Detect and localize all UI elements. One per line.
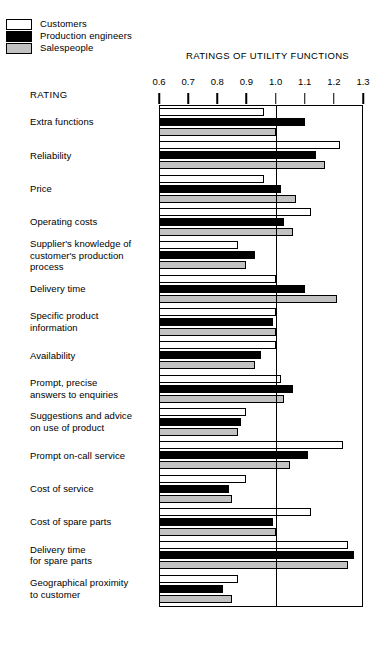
bar-customers [159, 575, 238, 583]
x-tick-label: 0.9 [240, 76, 253, 87]
category-label-line: Cost of service [30, 483, 158, 495]
bar-group [159, 174, 363, 207]
bar-production [159, 118, 305, 126]
category-label-line: Extra functions [30, 116, 158, 128]
bar-production [159, 251, 255, 259]
category-label-line: Geographical proximity [30, 577, 158, 589]
bar-customers [159, 175, 264, 183]
category-label: Availability [30, 350, 158, 362]
category-label-line: Specific product [30, 310, 158, 322]
category-label: Specific productinformation [30, 310, 158, 333]
bar-group [159, 140, 363, 173]
x-tick-mark [275, 93, 277, 104]
bar-customers [159, 541, 348, 549]
category-label-line: on use of product [30, 422, 158, 434]
x-tick-label: 1.2 [327, 76, 340, 87]
category-label: Supplier's knowledge ofcustomer's produc… [30, 238, 158, 273]
bar-group [159, 240, 363, 273]
bar-production [159, 151, 316, 159]
bar-salespeople [159, 261, 246, 269]
bar-customers [159, 275, 276, 283]
bar-group [159, 440, 363, 473]
x-tick-label: 1.0 [269, 76, 282, 87]
bar-customers [159, 308, 276, 316]
category-label-line: for spare parts [30, 555, 158, 567]
category-label: Price [30, 183, 158, 195]
chart-title: RATINGS OF UTILITY FUNCTIONS [186, 50, 349, 61]
bar-group [159, 274, 363, 307]
category-label-line: Cost of spare parts [30, 516, 158, 528]
bar-production [159, 418, 241, 426]
category-label-line: customer's production [30, 250, 158, 262]
legend-swatch-production-engineers [6, 31, 32, 42]
x-tick-label: 0.7 [182, 76, 195, 87]
bar-group [159, 107, 363, 140]
bar-salespeople [159, 328, 276, 336]
bar-group [159, 540, 363, 573]
category-label-line: Supplier's knowledge of [30, 238, 158, 250]
category-label-line: Price [30, 183, 158, 195]
legend-item-salespeople: Salespeople [6, 42, 186, 54]
bar-salespeople [159, 295, 337, 303]
x-tick-label: 1.3 [356, 76, 369, 87]
x-tick-mark [217, 93, 219, 104]
bar-salespeople [159, 128, 276, 136]
legend-item-production-engineers: Production engineers [6, 30, 186, 42]
category-label: Geographical proximityto customer [30, 577, 158, 600]
legend-label-production-engineers: Production engineers [40, 30, 132, 42]
bar-production [159, 518, 273, 526]
bar-salespeople [159, 228, 293, 236]
bar-customers [159, 141, 340, 149]
bar-customers [159, 408, 246, 416]
bar-production [159, 385, 293, 393]
legend-item-customers: Customers [6, 18, 186, 30]
bar-group [159, 307, 363, 340]
bar-salespeople [159, 561, 348, 569]
bar-customers [159, 241, 238, 249]
legend-label-salespeople: Salespeople [40, 42, 93, 54]
reference-line [276, 105, 278, 607]
category-label: Suggestions and adviceon use of product [30, 410, 158, 433]
category-label-line: Suggestions and advice [30, 410, 158, 422]
category-label-line: process [30, 261, 158, 273]
bar-salespeople [159, 528, 276, 536]
bar-production [159, 351, 261, 359]
plot-area [159, 105, 363, 607]
bar-group [159, 340, 363, 373]
x-tick-label: 1.1 [298, 76, 311, 87]
bar-group [159, 507, 363, 540]
category-label-line: Delivery time [30, 283, 158, 295]
category-label-line: Prompt, precise [30, 377, 158, 389]
x-tick-mark [187, 93, 189, 104]
bar-customers [159, 108, 264, 116]
bar-production [159, 285, 305, 293]
bar-group [159, 374, 363, 407]
bar-salespeople [159, 495, 232, 503]
bar-customers [159, 208, 311, 216]
category-label: Cost of service [30, 483, 158, 495]
legend-swatch-customers [6, 19, 32, 30]
bar-group [159, 574, 363, 607]
legend-swatch-salespeople [6, 43, 32, 54]
category-label-line: answers to enquiries [30, 389, 158, 401]
bar-salespeople [159, 461, 290, 469]
category-label-line: Prompt on-call service [30, 450, 158, 462]
category-label: Prompt on-call service [30, 450, 158, 462]
category-label: Prompt, preciseanswers to enquiries [30, 377, 158, 400]
category-label: Delivery time [30, 283, 158, 295]
x-tick-mark [304, 93, 306, 104]
bar-group [159, 407, 363, 440]
bar-production [159, 318, 273, 326]
x-tick-label: 0.6 [152, 76, 165, 87]
bar-salespeople [159, 361, 255, 369]
legend-label-customers: Customers [40, 18, 87, 30]
bar-customers [159, 508, 311, 516]
x-tick-label: 0.8 [211, 76, 224, 87]
category-label: Delivery timefor spare parts [30, 544, 158, 567]
legend: Customers Production engineers Salespeop… [6, 18, 186, 54]
x-axis: 0.60.70.80.91.01.11.21.3 [159, 76, 363, 105]
bar-production [159, 585, 223, 593]
bar-salespeople [159, 161, 325, 169]
x-tick-mark [246, 93, 248, 104]
bar-production [159, 451, 308, 459]
